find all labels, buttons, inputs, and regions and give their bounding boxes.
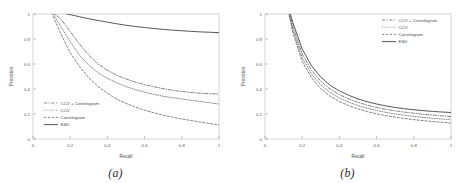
series-line (52, 12, 219, 33)
legend-label: CCV + Correlogram (61, 101, 100, 106)
legend-label: ESD (61, 122, 70, 127)
x-tick-label: 0.6 (374, 143, 381, 148)
x-tick-label: 0 (32, 143, 35, 148)
y-tick-label: 0.4 (24, 87, 31, 92)
y-tick-label: 0.2 (24, 112, 31, 117)
legend-label: CCV + Correlogram (399, 18, 438, 23)
y-axis-title: Precision (9, 67, 14, 86)
x-tick-label: 0.2 (299, 143, 306, 148)
y-tick-label: 0 (260, 137, 263, 142)
series-line (52, 12, 219, 95)
y-tick-label: 0.8 (256, 37, 263, 42)
x-tick-label: 0.4 (104, 143, 111, 148)
y-tick-label: 1 (260, 12, 263, 17)
panel-b-caption: (b) (232, 166, 463, 181)
y-tick-label: 0.6 (256, 62, 263, 67)
panel-a-plot: 00.20.40.60.8100.20.40.60.81RecallPrecis… (0, 0, 231, 183)
series-line (52, 12, 219, 105)
panel-a: 00.20.40.60.8100.20.40.60.81RecallPrecis… (0, 0, 231, 183)
x-axis-title: Recall (120, 154, 133, 159)
x-tick-label: 0 (264, 143, 267, 148)
x-tick-label: 1 (218, 143, 221, 148)
panel-b: 00.20.40.60.8100.20.40.60.81RecallPrecis… (232, 0, 463, 183)
series-line (52, 13, 219, 125)
x-axis-title: Recall (352, 154, 365, 159)
legend-label: CCV (399, 25, 408, 30)
legend-label: CCV (61, 108, 70, 113)
y-tick-label: 0 (28, 137, 31, 142)
y-axis-title: Precision (241, 67, 246, 86)
series-line (289, 14, 451, 120)
series-line (289, 12, 451, 117)
panel-a-caption: (a) (0, 166, 231, 181)
y-tick-label: 1 (28, 12, 31, 17)
y-tick-label: 0.6 (24, 62, 31, 67)
x-tick-label: 0.6 (142, 143, 149, 148)
x-tick-label: 0.8 (411, 143, 418, 148)
panel-b-plot: 00.20.40.60.8100.20.40.60.81RecallPrecis… (232, 0, 463, 183)
series-line (289, 10, 451, 112)
x-tick-label: 0.2 (67, 143, 74, 148)
legend-label: ESD (399, 39, 408, 44)
y-tick-label: 0.2 (256, 112, 263, 117)
legend-label: Correlogram (61, 115, 86, 120)
legend-label: Correlogram (399, 32, 424, 37)
x-tick-label: 0.8 (179, 143, 186, 148)
y-tick-label: 0.8 (24, 37, 31, 42)
y-tick-label: 0.4 (256, 87, 263, 92)
precision-recall-figure: 00.20.40.60.8100.20.40.60.81RecallPrecis… (0, 0, 463, 183)
x-tick-label: 0.4 (336, 143, 343, 148)
series-line (289, 15, 451, 123)
x-tick-label: 1 (450, 143, 453, 148)
